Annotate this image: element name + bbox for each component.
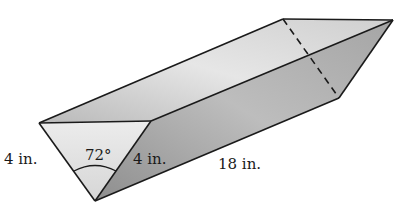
prism-diagram: 4 in. 72° 4 in. 18 in. (0, 0, 414, 216)
length-label: 18 in. (218, 155, 261, 173)
right-side-label: 4 in. (133, 150, 167, 168)
left-side-label: 4 in. (4, 150, 38, 168)
angle-label: 72° (85, 146, 112, 164)
